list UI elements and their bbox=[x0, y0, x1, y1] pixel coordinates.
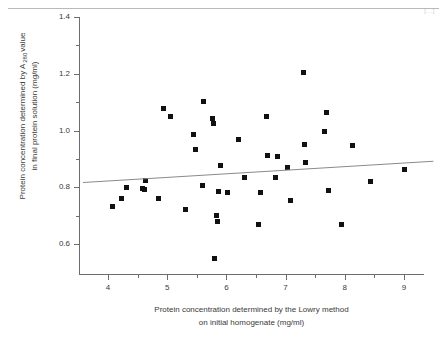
data-point bbox=[350, 143, 355, 148]
y-tick-label: 1.0 bbox=[48, 126, 70, 135]
y-axis-title-text-pre: Protein concentration determined by A bbox=[18, 64, 27, 200]
data-point bbox=[212, 256, 217, 261]
data-point bbox=[242, 175, 247, 180]
data-point bbox=[302, 142, 307, 147]
data-point bbox=[256, 222, 261, 227]
scatter-plot-figure: 0.60.81.01.21.4 456789 Protein concentra… bbox=[0, 0, 447, 337]
trend-line bbox=[83, 161, 434, 183]
data-point bbox=[288, 198, 293, 203]
y-axis-title-text-post: value bbox=[18, 33, 27, 52]
data-point bbox=[211, 121, 216, 126]
x-tick-minor bbox=[197, 275, 198, 278]
data-point bbox=[273, 175, 278, 180]
data-point bbox=[119, 196, 124, 201]
y-axis-title-line2: in final protein solution (mg/ml) bbox=[29, 1, 41, 231]
data-point bbox=[303, 160, 308, 165]
y-axis-title-subscript: 280 bbox=[22, 52, 28, 64]
data-point bbox=[322, 129, 327, 134]
y-tick-label: 0.6 bbox=[48, 239, 70, 248]
x-tick-major bbox=[108, 275, 109, 280]
plot-area bbox=[79, 17, 419, 275]
x-tick-label: 4 bbox=[98, 283, 118, 292]
x-tick-minor bbox=[138, 275, 139, 278]
data-point bbox=[339, 222, 344, 227]
data-point bbox=[326, 188, 331, 193]
x-tick-major bbox=[286, 275, 287, 280]
data-point bbox=[324, 110, 329, 115]
data-point bbox=[301, 70, 306, 75]
data-point bbox=[275, 154, 280, 159]
data-point bbox=[258, 190, 263, 195]
x-tick-major bbox=[226, 275, 227, 280]
data-point bbox=[214, 213, 219, 218]
x-axis-title-line2: on initial homogenate (mg/ml) bbox=[79, 316, 424, 329]
data-point bbox=[368, 179, 373, 184]
data-point bbox=[124, 185, 129, 190]
x-tick-label: 7 bbox=[276, 283, 296, 292]
data-point bbox=[236, 137, 241, 142]
x-tick-label: 9 bbox=[394, 283, 414, 292]
data-point bbox=[161, 106, 166, 111]
y-axis-title: Protein concentration determined by A280… bbox=[17, 1, 41, 231]
x-tick-label: 8 bbox=[335, 283, 355, 292]
data-point bbox=[168, 114, 173, 119]
data-point bbox=[216, 189, 221, 194]
data-point bbox=[193, 147, 198, 152]
x-tick-label: 6 bbox=[216, 283, 236, 292]
y-tick-label: 1.2 bbox=[48, 69, 70, 78]
data-point bbox=[402, 167, 407, 172]
x-tick-major bbox=[167, 275, 168, 280]
data-point bbox=[191, 132, 196, 137]
y-tick-label: 0.8 bbox=[48, 182, 70, 191]
data-point bbox=[210, 116, 215, 121]
x-tick-minor bbox=[256, 275, 257, 278]
x-tick-minor bbox=[374, 275, 375, 278]
data-point bbox=[183, 207, 188, 212]
data-point bbox=[156, 196, 161, 201]
data-point bbox=[218, 163, 223, 168]
data-point bbox=[225, 190, 230, 195]
data-point bbox=[264, 114, 269, 119]
data-point bbox=[201, 99, 206, 104]
data-point bbox=[215, 219, 220, 224]
y-tick-label: 1.4 bbox=[48, 12, 70, 21]
data-point bbox=[265, 153, 270, 158]
data-point bbox=[110, 204, 115, 209]
y-axis-title-line1: Protein concentration determined by A280… bbox=[18, 33, 27, 200]
x-tick-label: 5 bbox=[157, 283, 177, 292]
x-axis-title-line1: Protein concentration determined by the … bbox=[154, 305, 348, 314]
x-tick-major bbox=[345, 275, 346, 280]
x-tick-minor bbox=[315, 275, 316, 278]
x-tick-major bbox=[404, 275, 405, 280]
data-point bbox=[200, 183, 205, 188]
data-point bbox=[142, 187, 147, 192]
x-axis-title: Protein concentration determined by the … bbox=[79, 303, 424, 329]
